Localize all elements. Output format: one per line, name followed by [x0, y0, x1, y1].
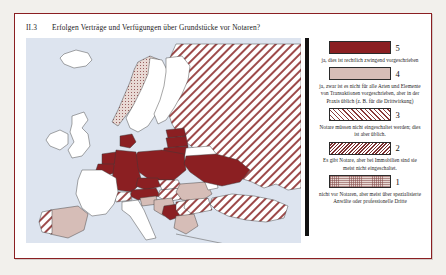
legend-swatch-3 [329, 108, 391, 121]
legend-swatch-1 [329, 175, 391, 188]
legend-description-3: Notare müssen nicht eingeschaltet werden… [318, 124, 422, 139]
legend-description-2: Es gibt Notare, aber bei Immobilien sind… [318, 157, 422, 172]
legend-swatch-5 [329, 41, 391, 54]
legend-number-3: 3 [391, 110, 412, 120]
figure-title: II.3 Erfolgen Verträge und Verfügungen ü… [26, 23, 423, 37]
legend-swatch-row-2: 2 [315, 141, 425, 156]
map-svg [26, 38, 301, 243]
legend-number-1: 1 [391, 177, 412, 187]
legend-swatch-row-1: 1 [315, 174, 425, 189]
legend-description-5: ja, dies ist rechtlich zwingend vorgesch… [318, 57, 422, 65]
legend-description-4: ja, zwar ist es nicht für alle Arten und… [318, 83, 422, 106]
legend-number-2: 2 [391, 143, 412, 153]
legend-number-4: 4 [391, 69, 412, 79]
legend-item-5: 5 ja, dies ist rechtlich zwingend vorges… [315, 40, 425, 64]
legend-swatch-row-4: 4 [315, 66, 425, 81]
legend-item-1: 1 nicht vor Notaren, aber meist über spe… [315, 174, 425, 206]
europe-choropleth-map: JP [26, 38, 301, 243]
legend-number-5: 5 [391, 43, 412, 53]
page-title: Erfolgen Verträge und Verfügungen über G… [52, 23, 423, 32]
legend-swatch-2 [329, 142, 391, 155]
legend-item-3: 3 Notare müssen nicht eingeschaltet werd… [315, 107, 425, 139]
figure-number: II.3 [26, 23, 52, 32]
legend-swatch-row-3: 3 [315, 107, 425, 122]
legend: 5 ja, dies ist rechtlich zwingend vorges… [315, 40, 425, 208]
legend-item-4: 4 ja, zwar ist es nicht für alle Arten u… [315, 66, 425, 105]
legend-item-2: 2 Es gibt Notare, aber bei Immobilien si… [315, 141, 425, 173]
legend-description-1: nicht vor Notaren, aber meist über spezi… [318, 191, 422, 206]
legend-swatch-row-5: 5 [315, 40, 425, 55]
legend-separator-bar [305, 38, 309, 236]
legend-swatch-4 [329, 67, 391, 80]
figure-frame: II.3 Erfolgen Verträge und Verfügungen ü… [14, 13, 432, 259]
